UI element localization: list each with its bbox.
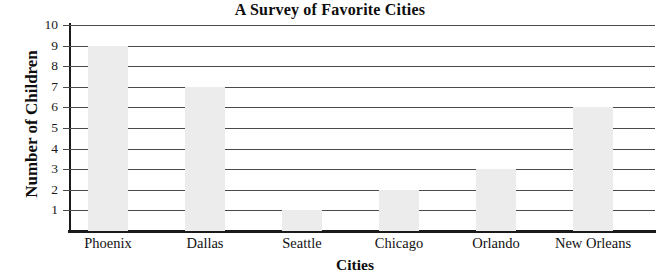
y-tick-label-7: 7 — [28, 80, 58, 94]
chart-title: A Survey of Favorite Cities — [0, 0, 660, 20]
y-tick-label-10: 10 — [28, 18, 58, 32]
gridline-1 — [69, 210, 655, 211]
gridline-2 — [69, 190, 655, 191]
y-tick-9 — [63, 46, 70, 47]
y-tick-label-4: 4 — [28, 142, 58, 156]
gridline-9 — [69, 46, 655, 47]
y-tick-5 — [63, 128, 70, 129]
y-tick-2 — [63, 190, 70, 191]
y-tick-label-6: 6 — [28, 100, 58, 114]
y-tick-label-9: 9 — [28, 39, 58, 53]
gridline-8 — [69, 66, 655, 67]
x-tick-label-new-orleans: New Orleans — [533, 234, 653, 252]
y-tick-7 — [63, 87, 70, 88]
y-tick-label-2: 2 — [28, 183, 58, 197]
y-tick-label-8: 8 — [28, 59, 58, 73]
y-tick-8 — [63, 66, 70, 67]
bar-chart: A Survey of Favorite Cities Number of Ch… — [0, 0, 660, 277]
gridline-4 — [69, 149, 655, 150]
bar-chicago — [379, 190, 419, 231]
x-axis-line — [68, 230, 656, 233]
y-tick-3 — [63, 169, 70, 170]
bar-phoenix — [88, 46, 128, 231]
y-tick-label-1: 1 — [28, 203, 58, 217]
y-tick-label-5: 5 — [28, 121, 58, 135]
gridline-10 — [69, 25, 655, 26]
y-tick-6 — [63, 107, 70, 108]
bar-orlando — [476, 169, 516, 231]
y-tick-4 — [63, 149, 70, 150]
x-axis-title: Cities — [0, 255, 660, 274]
bar-new-orleans — [573, 107, 613, 231]
y-tick-label-3: 3 — [28, 162, 58, 176]
plot-area — [69, 25, 655, 231]
gridline-6 — [69, 107, 655, 108]
gridline-7 — [69, 87, 655, 88]
bar-seattle — [282, 210, 322, 231]
y-tick-10 — [63, 25, 70, 26]
gridline-3 — [69, 169, 655, 170]
y-tick-1 — [63, 210, 70, 211]
bar-dallas — [185, 87, 225, 231]
gridline-5 — [69, 128, 655, 129]
